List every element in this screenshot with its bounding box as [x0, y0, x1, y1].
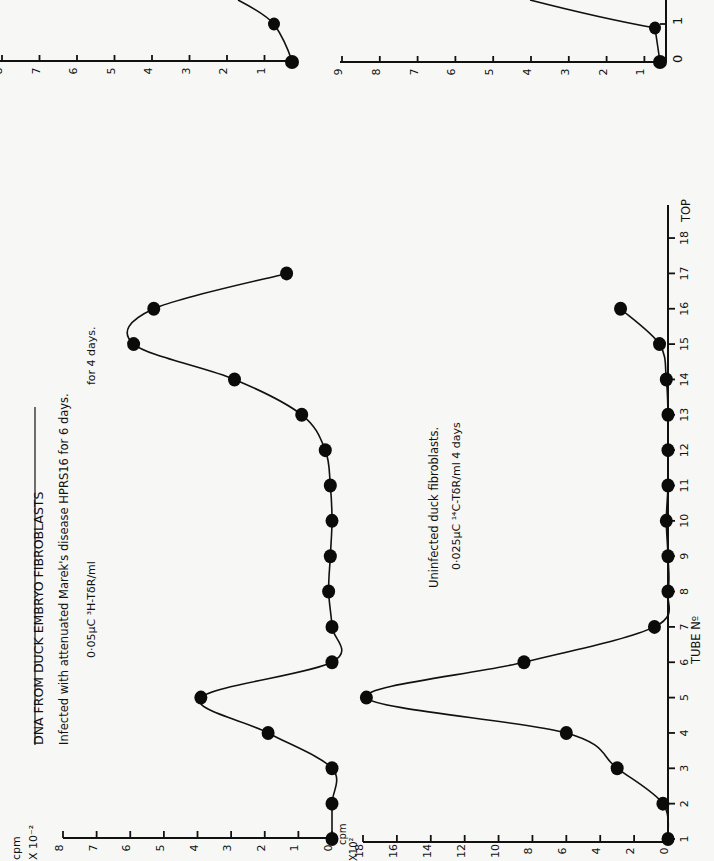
data-point [662, 832, 675, 846]
data-point [662, 585, 675, 599]
cpm-tick-label: 5 [154, 845, 167, 852]
upper-y-label-2: X 10⁻² [27, 825, 40, 860]
cpm-tick-label: 6 [120, 845, 133, 852]
tick-label: 8 [370, 69, 383, 76]
data-point [614, 302, 627, 316]
tick-label: 5 [483, 69, 496, 76]
cpm-tick-label: 14 [421, 844, 434, 858]
cpm-tick-label: 8 [53, 845, 66, 852]
data-point [662, 408, 675, 422]
data-point [360, 691, 373, 705]
tube-tick-label: 13 [678, 408, 691, 422]
data-point [324, 479, 337, 493]
data-point [653, 55, 667, 69]
data-point [228, 372, 241, 386]
tick-label: 7 [30, 68, 43, 75]
data-point [285, 55, 299, 69]
tick-label: 5 [105, 68, 118, 75]
data-point [319, 443, 332, 457]
data-point [656, 797, 669, 811]
cpm-tick-label: 4 [590, 848, 603, 855]
tick-label: 9 [332, 69, 345, 76]
tube-tick-label: 11 [678, 479, 691, 493]
tube-tick-label: 18 [678, 231, 691, 245]
cpm-tick-label: 12 [455, 844, 468, 858]
data-point [326, 797, 339, 811]
top-right-axis-ticks: 987654321 [332, 56, 647, 76]
lower-y-label-2: X10² [348, 837, 359, 861]
data-point [194, 691, 207, 705]
cpm-tick-label: 4 [188, 845, 201, 852]
top-left-curve [238, 0, 292, 61]
tube-tick-label: 5 [678, 694, 691, 701]
upper-cpm-axis: 012345678 cpm X 10⁻² [10, 825, 335, 860]
data-point [127, 337, 140, 351]
data-point [326, 761, 339, 775]
title-block: DNA FROM DUCK EMBRYO FIBROBLASTS Infecte… [31, 326, 463, 745]
tick-label: 1 [255, 68, 268, 75]
tick-label: 4 [142, 68, 155, 75]
series-line [127, 273, 342, 839]
tube-tick-label: 16 [678, 302, 691, 316]
lower-y-label-1: cpm [337, 823, 348, 845]
data-point [326, 655, 339, 669]
cpm-tick-label: 3 [221, 845, 234, 852]
data-point [262, 726, 275, 740]
upper-y-label-1: cpm [10, 836, 23, 860]
tube-tick-label: 4 [678, 729, 691, 736]
tube-axis: 123456789101112131415161718 TUBE Nº TOP [668, 199, 703, 845]
tick-label: 3 [559, 69, 572, 76]
infected-caption-line1: Infected with attenuated Marek's disease… [57, 393, 71, 745]
cpm-tick-label: 16 [387, 844, 400, 858]
tick-label: 6 [445, 69, 458, 76]
tube-axis-ticks: 123456789101112131415161718 [668, 231, 691, 842]
data-point [268, 18, 280, 31]
x-axis-label: TUBE Nº [689, 616, 703, 665]
lower-cpm-axis: 024681012141618 cpm X10² [337, 823, 671, 861]
tick-label: 8 [0, 68, 5, 75]
series-infected-3h [127, 266, 342, 846]
cpm-tick-label: 10 [489, 844, 502, 858]
upper-cpm-axis-ticks: 012345678 [53, 831, 335, 852]
data-point [326, 514, 339, 528]
data-point [326, 832, 339, 846]
data-point [653, 337, 666, 351]
series-uninfected-14c [360, 302, 675, 846]
data-point [324, 549, 337, 563]
uninfected-caption-line1: Uninfected duck fibroblasts. [427, 427, 441, 588]
uninfected-caption-line2: 0·025μC ¹⁴C-TδR/ml 4 days [450, 422, 463, 570]
tube-tick-label: 14 [678, 372, 691, 386]
tube-tick-label: 12 [678, 443, 691, 457]
tube-tick-label: 8 [678, 588, 691, 595]
data-point [517, 655, 530, 669]
tick-label: 2 [217, 68, 230, 75]
data-point [649, 22, 661, 35]
tick-label: 3 [180, 68, 193, 75]
series-line [366, 309, 669, 839]
x-axis-end-label: TOP [679, 199, 693, 223]
cpm-tick-label: 7 [87, 845, 100, 852]
tick-label: 2 [597, 69, 610, 76]
infected-caption-line2a: 0·05μC ³H-TδR/ml [85, 561, 98, 658]
data-point [662, 549, 675, 563]
figure-title: DNA FROM DUCK EMBRYO FIBROBLASTS [31, 492, 46, 745]
data-point [280, 266, 293, 280]
tube-tick-label: 17 [678, 266, 691, 280]
tube-axis-tick-label: 0 [670, 55, 685, 63]
tube-tick-label: 10 [678, 514, 691, 528]
infected-caption-line2b: for 4 days. [85, 326, 98, 385]
cpm-tick-label: 2 [624, 848, 637, 855]
data-point [660, 372, 673, 386]
cpm-tick-label: 8 [522, 848, 535, 855]
lower-cpm-axis-ticks: 024681012141618 [353, 835, 671, 858]
data-point [147, 302, 160, 316]
tube-tick-label: 3 [678, 765, 691, 772]
tube-tick-label: 1 [678, 836, 691, 843]
tube-tick-label: 9 [678, 553, 691, 560]
tube-axis-tick-label: 1 [670, 17, 685, 25]
data-point [662, 443, 675, 457]
cpm-tick-label: 2 [255, 845, 268, 852]
tube-tick-label: 2 [678, 800, 691, 807]
top-left-axis-ticks: 87654321 [0, 55, 268, 75]
tube-tick-label: 15 [678, 337, 691, 351]
